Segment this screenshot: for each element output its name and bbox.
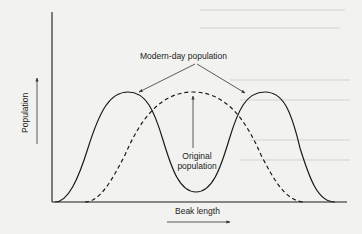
y-axis-label: Population xyxy=(21,93,31,133)
original-label-line2: population xyxy=(172,162,222,172)
modern-population-curve xyxy=(55,92,335,202)
modern-arrow-right xyxy=(197,64,245,93)
x-axis-label: Beak length xyxy=(175,207,220,217)
original-population-label: Original population xyxy=(172,152,222,172)
modern-arrow-left xyxy=(139,64,195,92)
original-population-curve xyxy=(85,92,305,202)
population-diagram xyxy=(0,0,362,234)
modern-population-label: Modern-day population xyxy=(140,52,227,62)
background-texture xyxy=(200,10,350,160)
